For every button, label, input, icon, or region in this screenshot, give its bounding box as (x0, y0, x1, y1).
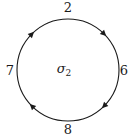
center-label-subscript: 2 (66, 68, 72, 78)
center-label-sigma: σ2 (57, 61, 72, 78)
node-label-left: 7 (6, 63, 14, 78)
cycle-diagram: 2 6 8 7 σ2 (0, 0, 136, 137)
node-label-right: 6 (120, 63, 128, 78)
node-label-bottom: 8 (64, 122, 72, 137)
node-label-top: 2 (64, 0, 72, 15)
